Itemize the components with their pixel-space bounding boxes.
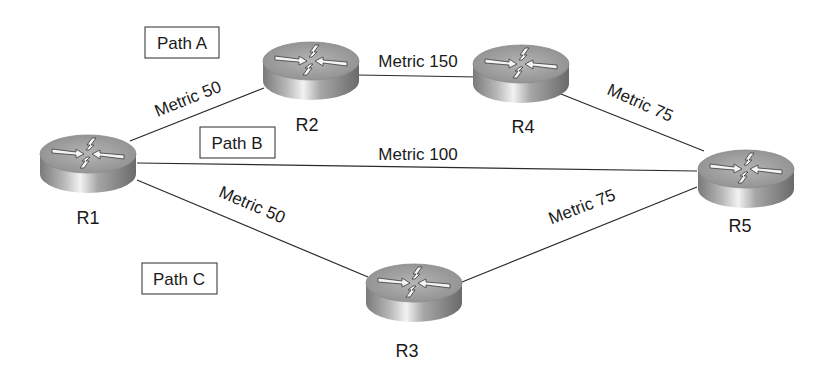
path-c-box: Path C: [142, 263, 217, 294]
metric-label-r4-r5: Metric 75: [604, 80, 676, 126]
router-label-r4: R4: [511, 117, 534, 137]
router-r5: R5: [698, 150, 794, 236]
network-diagram: Metric 50 Metric 150 Metric 75 Metric 10…: [0, 0, 826, 369]
metric-label-r3-r5: Metric 75: [546, 185, 618, 228]
router-icon: [473, 45, 569, 103]
path-c-label: Path C: [153, 270, 205, 289]
link-r1-r5: [137, 163, 697, 171]
metric-label-r1-r3: Metric 50: [216, 183, 288, 228]
router-icon: [366, 264, 462, 322]
router-icon: [263, 42, 359, 100]
metric-label-r2-r4: Metric 150: [378, 52, 457, 71]
path-a-label: Path A: [157, 34, 208, 53]
path-a-box: Path A: [145, 27, 219, 58]
metric-label-r1-r2: Metric 50: [152, 77, 224, 121]
router-icon: [698, 150, 794, 208]
router-r1: R1: [40, 135, 136, 228]
metric-label-r1-r5: Metric 100: [378, 145, 457, 164]
router-label-r2: R2: [295, 115, 318, 135]
router-r4: R4: [473, 45, 569, 137]
router-label-r5: R5: [728, 216, 751, 236]
router-label-r3: R3: [395, 341, 418, 361]
link-r2-r4: [358, 75, 478, 77]
path-b-label: Path B: [211, 134, 262, 153]
links: [130, 75, 704, 282]
router-r3: R3: [366, 264, 462, 361]
router-r2: R2: [263, 42, 359, 135]
router-label-r1: R1: [76, 208, 99, 228]
path-b-box: Path B: [200, 127, 275, 158]
router-icon: [40, 135, 136, 193]
